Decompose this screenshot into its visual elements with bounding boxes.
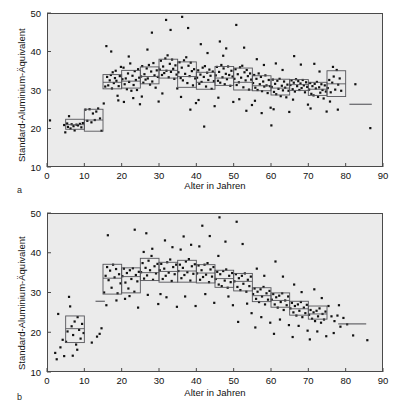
data-point (129, 62, 131, 64)
x-tick-label: 30 (154, 375, 165, 386)
data-point (268, 79, 270, 81)
data-point (237, 321, 239, 323)
data-point (114, 77, 116, 79)
data-point (124, 298, 126, 300)
data-point (125, 77, 127, 79)
data-point (274, 260, 276, 262)
data-point (213, 302, 215, 304)
data-point (278, 295, 280, 297)
x-tick-label: 70 (303, 375, 314, 386)
data-point (338, 304, 340, 306)
x-tick-label: 40 (191, 375, 202, 386)
data-point (131, 75, 133, 77)
data-point (275, 62, 277, 64)
data-point (285, 96, 287, 98)
data-point (120, 66, 122, 68)
data-point (76, 349, 78, 351)
data-point (317, 315, 319, 317)
data-point (126, 272, 128, 274)
data-point (242, 86, 244, 88)
data-point (127, 287, 129, 289)
x-axis-label-b: Alter in Jahren (155, 387, 275, 398)
data-point (118, 273, 120, 275)
data-point (236, 84, 238, 86)
data-point (282, 89, 284, 91)
data-point (169, 258, 171, 260)
panel-label-a: a (17, 185, 22, 195)
data-point (183, 274, 185, 276)
data-point (181, 67, 183, 69)
data-point (293, 283, 295, 285)
data-point (146, 48, 148, 50)
data-point (92, 112, 94, 114)
data-point (198, 83, 200, 85)
data-point (231, 272, 233, 274)
data-point (124, 281, 126, 283)
data-point (146, 67, 148, 69)
data-point (314, 320, 316, 322)
data-point (324, 310, 326, 312)
data-point (155, 87, 157, 89)
data-point (115, 268, 117, 270)
data-point (219, 82, 221, 84)
data-point (238, 277, 240, 279)
data-point (105, 45, 107, 47)
data-point (130, 278, 132, 280)
data-point (261, 112, 263, 114)
data-point (189, 279, 191, 281)
data-point (340, 90, 342, 92)
data-point (183, 235, 185, 237)
plot-area-b: 01020304050607080901020304050 (0, 205, 404, 413)
data-point (238, 98, 240, 100)
data-point (130, 90, 132, 92)
data-point (175, 264, 177, 266)
data-point (184, 73, 186, 75)
x-tick-label: 60 (266, 375, 277, 386)
data-point (242, 283, 244, 285)
x-tick-label: 50 (228, 375, 239, 386)
data-point (286, 84, 288, 86)
data-point (162, 278, 164, 280)
data-point (194, 305, 196, 307)
data-point (127, 72, 129, 74)
data-point (174, 273, 176, 275)
data-point (200, 43, 202, 45)
data-point (161, 74, 163, 76)
y-tick-label: 40 (30, 247, 41, 258)
data-point (99, 333, 101, 335)
data-point (143, 73, 145, 75)
x-tick-label: 80 (340, 375, 351, 386)
data-point (209, 268, 211, 270)
data-point (203, 76, 205, 78)
data-point (62, 339, 64, 341)
data-point (318, 307, 320, 309)
data-point (228, 74, 230, 76)
data-point (320, 322, 322, 324)
data-point (166, 54, 168, 56)
data-point (197, 99, 199, 101)
data-point (330, 315, 332, 317)
data-point (147, 77, 149, 79)
data-point (119, 75, 121, 77)
data-point (136, 89, 138, 91)
data-point (54, 352, 56, 354)
y-tick-label: 50 (30, 8, 41, 19)
data-point (301, 316, 303, 318)
data-point (262, 80, 264, 82)
data-point (255, 298, 257, 300)
data-point (307, 104, 309, 106)
data-point (204, 65, 206, 67)
data-point (281, 69, 283, 71)
data-point (151, 32, 153, 34)
data-point (254, 100, 256, 102)
data-point (186, 82, 188, 84)
data-point (135, 274, 137, 276)
data-point (218, 216, 220, 218)
data-point (165, 275, 167, 277)
data-point (265, 292, 267, 294)
data-point (64, 131, 66, 133)
data-point (208, 69, 210, 71)
data-point (267, 299, 269, 301)
data-point (311, 85, 313, 87)
data-point (149, 269, 151, 271)
